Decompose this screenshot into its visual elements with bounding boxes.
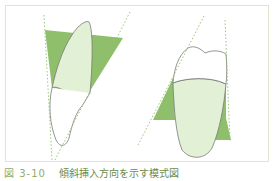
right-tooth-root xyxy=(173,79,226,158)
left-panel xyxy=(44,12,130,160)
left-tooth-root xyxy=(50,88,90,145)
caption-number: 図 3-10 xyxy=(4,168,46,179)
right-tooth-crown xyxy=(173,47,227,84)
caption-text: 傾斜挿入方向を示す模式図 xyxy=(59,168,179,179)
right-panel xyxy=(138,16,231,157)
figure-caption: 図 3-10 傾斜挿入方向を示す模式図 xyxy=(4,168,179,180)
tooth-diagram xyxy=(0,0,276,165)
right-undercut-left xyxy=(153,78,175,120)
